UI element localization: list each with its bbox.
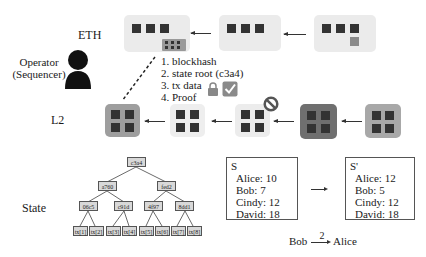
merkle-leaf: tx[1]: [73, 226, 88, 236]
state-before-title: S: [231, 160, 293, 172]
state-row: Cindy: 12: [350, 196, 410, 208]
merkle-leaf: tx[7]: [171, 226, 186, 236]
merkle-node: 06c5: [79, 201, 98, 211]
state-after-box: S' Alice: 12 Bob: 5 Cindy: 12 David: 18: [345, 157, 415, 220]
arrow-right-icon: [311, 189, 326, 190]
merkle-node: fed2: [157, 181, 176, 191]
merkle-leaf: tx[4]: [122, 226, 137, 236]
merkle-leaf: tx[6]: [155, 226, 170, 236]
state-row: Bob: 5: [350, 184, 410, 196]
merkle-leaf: tx[3]: [106, 226, 121, 236]
merkle-leaf: tx[8]: [187, 226, 202, 236]
state-row: Bob: 7: [231, 184, 293, 196]
transfer-from: Bob: [289, 235, 307, 247]
merkle-leaf: tx[5]: [139, 226, 154, 236]
transfer-arrow-icon: [311, 242, 328, 243]
transfer-to: Alice: [333, 235, 357, 247]
merkle-node: 4f97: [144, 201, 163, 211]
merkle-root-node: c3a4: [127, 157, 146, 167]
state-row: David: 18: [350, 208, 410, 220]
state-row: David: 18: [231, 208, 293, 220]
merkle-node: c91d: [114, 201, 133, 211]
state-row: Alice: 12: [350, 172, 410, 184]
merkle-node: a760: [98, 181, 117, 191]
merkle-node: 8dd1: [175, 201, 194, 211]
state-before-box: S Alice: 10 Bob: 7 Cindy: 12 David: 18: [226, 157, 298, 220]
state-after-title: S': [350, 160, 410, 172]
state-row: Cindy: 12: [231, 196, 293, 208]
merkle-leaf: tx[2]: [89, 226, 104, 236]
state-row: Alice: 10: [231, 172, 293, 184]
